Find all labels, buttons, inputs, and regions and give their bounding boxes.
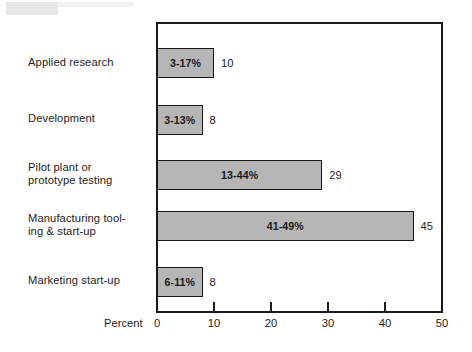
scan-artifact <box>6 2 58 15</box>
category-label-line: prototype testing <box>28 174 156 187</box>
category-label: Manufacturing tool-ing & start-up <box>28 212 156 238</box>
x-axis-tick-label: 0 <box>142 317 172 329</box>
x-axis-tick <box>327 302 329 311</box>
bar-range-label: 13-44% <box>158 169 321 181</box>
chart-page: Applied research3-17%10Development3-13%8… <box>0 0 472 352</box>
category-label: Applied research <box>28 56 156 69</box>
category-label-line: Pilot plant or <box>28 161 156 174</box>
bar: 3-13% <box>157 105 203 135</box>
category-label-line: Manufacturing tool- <box>28 212 156 225</box>
category-label-line: Applied research <box>28 56 156 69</box>
bar-value-label: 29 <box>329 169 341 181</box>
x-axis-tick <box>384 302 386 311</box>
category-label-line: Marketing start-up <box>28 274 156 287</box>
x-axis-tick <box>213 302 215 311</box>
bar-range-label: 6-11% <box>158 276 202 288</box>
bar-value-label: 8 <box>210 276 216 288</box>
x-axis-tick-label: 20 <box>256 317 286 329</box>
x-axis-tick-label: 30 <box>313 317 343 329</box>
x-axis-tick-label: 10 <box>199 317 229 329</box>
category-label: Development <box>28 112 156 125</box>
bar: 3-17% <box>157 48 214 78</box>
bar-range-label: 41-49% <box>158 220 413 232</box>
bar: 13-44% <box>157 160 322 190</box>
bar-value-label: 45 <box>421 220 433 232</box>
bar-value-label: 10 <box>221 57 233 69</box>
category-label-line: Development <box>28 112 156 125</box>
bar: 6-11% <box>157 267 203 297</box>
bar-range-label: 3-13% <box>158 114 202 126</box>
x-axis-tick <box>270 302 272 311</box>
scan-artifact-secondary <box>58 2 133 7</box>
category-label: Pilot plant orprototype testing <box>28 161 156 187</box>
bar-value-label: 8 <box>210 114 216 126</box>
bar-range-label: 3-17% <box>158 57 213 69</box>
x-axis-tick-label: 50 <box>427 317 457 329</box>
x-axis-title: Percent <box>104 317 143 329</box>
bar: 41-49% <box>157 211 414 241</box>
category-label: Marketing start-up <box>28 274 156 287</box>
category-label-line: ing & start-up <box>28 225 156 238</box>
x-axis-tick-label: 40 <box>370 317 400 329</box>
